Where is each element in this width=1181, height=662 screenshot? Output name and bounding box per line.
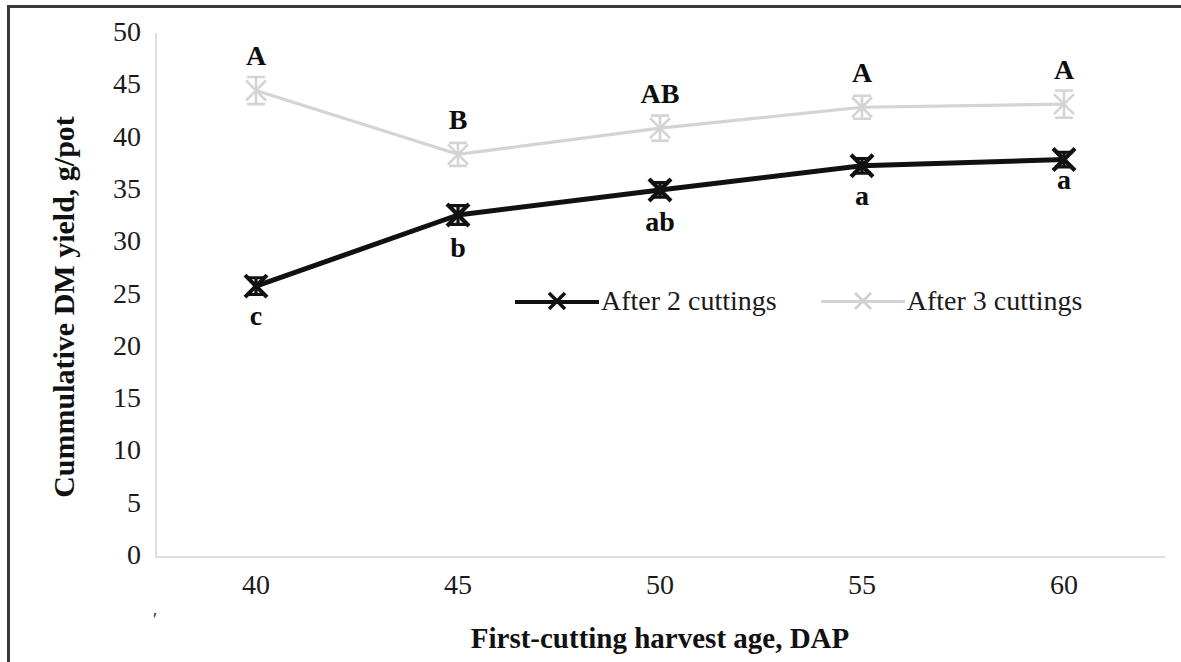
significance-letter: B (449, 106, 468, 134)
legend-label-after-2-cuttings: After 2 cuttings (601, 285, 777, 317)
y-tick-label: 0 (83, 541, 141, 569)
chart-legend: After 2 cuttings After 3 cuttings (515, 285, 1083, 317)
x-tick-label: 50 (620, 571, 700, 599)
x-marker-icon (851, 289, 875, 313)
significance-letter: AB (641, 80, 680, 108)
legend-label-after-3-cuttings: After 3 cuttings (907, 285, 1083, 317)
x-axis-title: First-cutting harvest age, DAP (155, 622, 1165, 655)
page-top-rule (7, 5, 1181, 8)
y-tick-label: 20 (83, 332, 141, 360)
y-tick-label: 30 (83, 228, 141, 256)
x-tick-label: 60 (1024, 571, 1104, 599)
significance-letter: A (246, 42, 266, 70)
x-tick-label: 45 (418, 571, 498, 599)
significance-letter: ab (645, 208, 675, 236)
x-marker-icon (545, 289, 569, 313)
significance-letter: c (250, 302, 262, 330)
significance-letter: a (1057, 166, 1071, 194)
y-tick-label: 40 (83, 123, 141, 151)
significance-letter: A (852, 59, 872, 87)
significance-letter: a (855, 182, 869, 210)
x-tick-label: 40 (216, 571, 296, 599)
y-tick-label: 35 (83, 175, 141, 203)
plot-area: 05101520253035404550 4045505560 ABABAAcb… (155, 33, 1165, 558)
x-tick-label: 55 (822, 571, 902, 599)
legend-swatch-after-2-cuttings (515, 289, 599, 313)
legend-swatch-after-3-cuttings (821, 289, 905, 313)
significance-letter: A (1054, 56, 1074, 84)
legend-item-after-3-cuttings: After 3 cuttings (821, 285, 1083, 317)
y-tick-label: 45 (83, 71, 141, 99)
y-tick-label: 15 (83, 385, 141, 413)
y-tick-label: 10 (83, 437, 141, 465)
y-tick-label: 50 (83, 18, 141, 46)
y-tick-label: 25 (83, 280, 141, 308)
page-left-rule (7, 5, 10, 662)
figure-page: Cummulative DM yield, g/pot First-cuttin… (0, 0, 1181, 662)
significance-letter: b (450, 234, 466, 262)
y-axis-title: Cummulative DM yield, g/pot (47, 27, 81, 587)
legend-item-after-2-cuttings: After 2 cuttings (515, 285, 777, 317)
y-tick-label: 5 (83, 489, 141, 517)
